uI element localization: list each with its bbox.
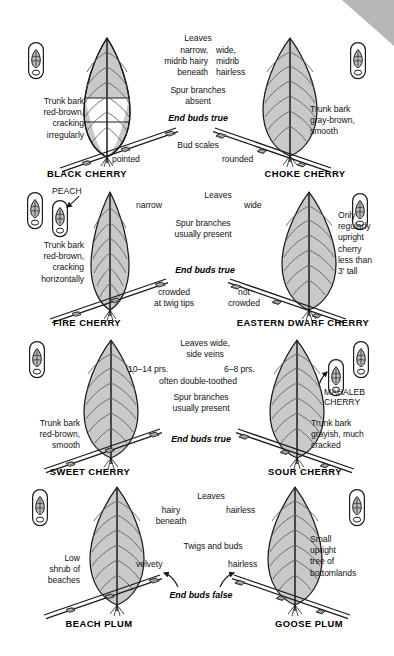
peach-pointer-arrow (60, 194, 82, 212)
row3-shared-trait: Spur branches usually present (146, 392, 256, 414)
bud-icon-sweet-cherry (28, 340, 46, 379)
bud-icon-black-cherry (27, 41, 45, 80)
row1-left-trait: narrow, midrib hairy beneath (128, 45, 208, 79)
row3-sub-trait: often double-toothed (136, 376, 260, 387)
row4-heading: Leaves (176, 491, 246, 502)
bud-icon-choke-cherry (349, 41, 367, 80)
note-black-cherry: Trunk bark red-brown, cracking irregular… (8, 96, 84, 141)
row1-heading: Leaves (158, 33, 238, 44)
bud-icon-goose-plum (348, 488, 366, 527)
note-eastern-dwarf-cherry: Only regularly upright cherry less than … (338, 210, 394, 277)
note-sweet-cherry: Trunk bark red-brown, smooth (2, 418, 80, 452)
bud-icon-beach-plum (31, 488, 49, 527)
bud-icon-mahaleb-cherry (352, 340, 370, 379)
species-fire-cherry: FIRE CHERRY (22, 317, 152, 328)
row1-end-buds: End buds true (148, 113, 248, 123)
row2-left-bud-arrangement: crowded at twig tips (138, 287, 210, 309)
note-goose-plum: Small upright tree of bottomlands (310, 534, 394, 579)
row2-left-trait: narrow (136, 200, 196, 211)
species-sour-cherry: SOUR CHERRY (240, 466, 370, 477)
bud-icon-fire-cherry (26, 191, 44, 230)
minor-species-mahaleb-cherry: MAHALEB CHERRY (324, 387, 394, 408)
row3-heading: Leaves wide, side veins (150, 338, 260, 360)
identification-key-page: Trunk bark red-brown, cracking irregular… (0, 0, 394, 656)
species-sweet-cherry: SWEET CHERRY (20, 466, 160, 477)
row4-left-trait: hairy beneath (138, 505, 204, 527)
note-sour-cherry: Trunk bark grayish, much cracked (311, 418, 394, 452)
row2-end-buds: End buds true (150, 265, 260, 275)
row2-shared-trait: Spur branches usually present (148, 218, 258, 240)
row4-left-twig-trait: velvety (136, 559, 196, 570)
note-beach-plum: Low shrub of beaches (2, 553, 80, 587)
species-eastern-dwarf-cherry: EASTERN DWARF CHERRY (218, 317, 388, 328)
row3-left-trait: 10–14 prs. (128, 364, 192, 375)
note-fire-cherry: Trunk bark red-brown, cracking horizonta… (4, 240, 84, 285)
note-choke-cherry: Trunk bark gray-brown, smooth (310, 104, 394, 138)
row4-twig-heading: Twigs and buds (152, 541, 274, 552)
species-black-cherry: BLACK CHERRY (22, 168, 152, 179)
row1-shared-trait: Spur branches absent (148, 85, 248, 107)
species-goose-plum: GOOSE PLUM (244, 618, 374, 629)
species-choke-cherry: CHOKE CHERRY (240, 168, 370, 179)
species-beach-plum: BEACH PLUM (34, 618, 164, 629)
row1-left-bud-scales: pointed (112, 154, 172, 165)
velvety-pointer-arrow (156, 571, 180, 591)
